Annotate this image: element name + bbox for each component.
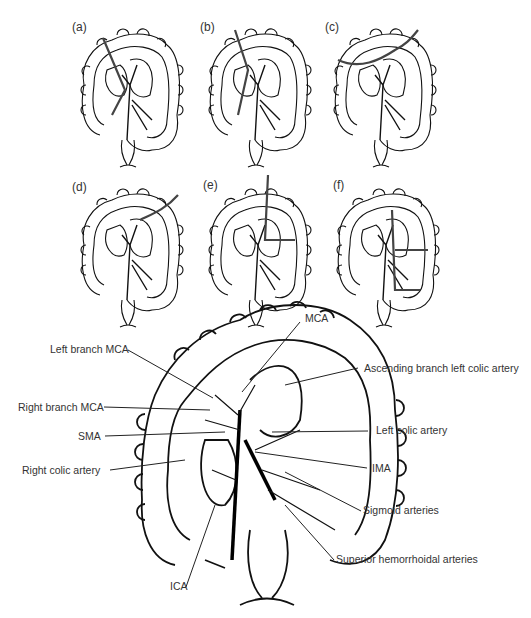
label-ascending-branch-left-colic: Ascending branch left colic artery <box>364 362 519 374</box>
label-superior-hemorrhoidal-arteries: Superior hemorrhoidal arteries <box>336 553 478 565</box>
resection-lines <box>103 30 428 290</box>
label-right-branch-mca: Right branch MCA <box>18 401 104 413</box>
label-sigmoid-arteries: Sigmoid arteries <box>363 504 439 516</box>
colon-vasculature-diagram <box>0 0 531 618</box>
main-vessels <box>232 410 275 560</box>
label-mca: MCA <box>305 312 328 324</box>
label-ica: ICA <box>170 580 188 592</box>
label-ima: IMA <box>372 462 391 474</box>
label-left-branch-mca: Left branch MCA <box>50 343 129 355</box>
label-sma: SMA <box>78 430 101 442</box>
label-right-colic-artery: Right colic artery <box>22 464 100 476</box>
label-left-colic-artery: Left colic artery <box>376 424 447 436</box>
